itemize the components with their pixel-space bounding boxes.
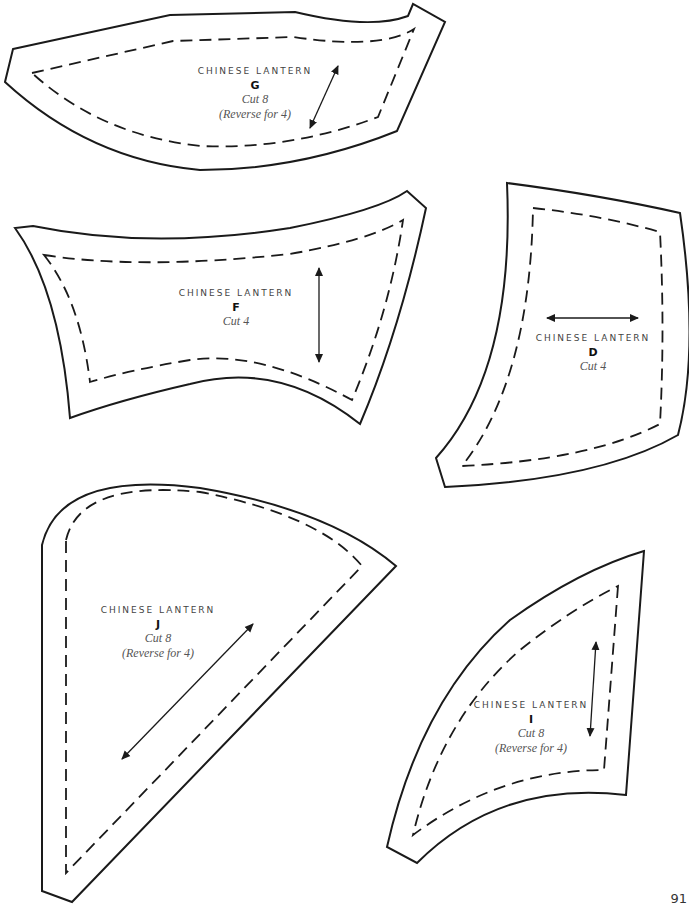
piece-f-letter: F — [179, 301, 294, 314]
piece-i-pattern-name: CHINESE LANTERN — [474, 700, 589, 710]
piece-j-pattern-name: CHINESE LANTERN — [101, 605, 216, 615]
piece-f-label: CHINESE LANTERN F Cut 4 — [179, 288, 294, 329]
page-number: 91 — [670, 891, 687, 906]
piece-d-cut-count: Cut 4 — [536, 359, 651, 374]
piece-f-pattern-name: CHINESE LANTERN — [179, 288, 294, 298]
piece-d-pattern-name: CHINESE LANTERN — [536, 333, 651, 343]
piece-f-cut-count: Cut 4 — [179, 314, 294, 329]
piece-g-label: CHINESE LANTERN G Cut 8 (Reverse for 4) — [198, 66, 313, 122]
piece-g-cut-count: Cut 8 — [198, 92, 313, 107]
piece-j-letter: J — [101, 618, 216, 631]
piece-d-label: CHINESE LANTERN D Cut 4 — [536, 333, 651, 374]
piece-g-reverse-note: (Reverse for 4) — [198, 107, 313, 122]
pattern-sheet — [0, 0, 689, 908]
piece-j-reverse-note: (Reverse for 4) — [101, 646, 216, 661]
piece-j-label: CHINESE LANTERN J Cut 8 (Reverse for 4) — [101, 605, 216, 661]
piece-d-letter: D — [536, 346, 651, 359]
piece-j — [42, 485, 396, 902]
piece-j-cut-count: Cut 8 — [101, 631, 216, 646]
piece-i-letter: I — [474, 713, 589, 726]
piece-g-pattern-name: CHINESE LANTERN — [198, 66, 313, 76]
piece-i-label: CHINESE LANTERN I Cut 8 (Reverse for 4) — [474, 700, 589, 756]
piece-i-cut-count: Cut 8 — [474, 726, 589, 741]
piece-g-letter: G — [198, 79, 313, 92]
piece-i-reverse-note: (Reverse for 4) — [474, 741, 589, 756]
